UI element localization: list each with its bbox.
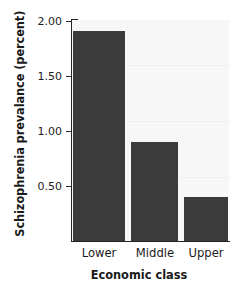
y-axis-line bbox=[71, 19, 72, 242]
y-tick-label-0.50: 0.50 bbox=[22, 181, 62, 192]
y-tick-label-2.00: 2.00 bbox=[22, 16, 62, 27]
plot-area bbox=[72, 20, 229, 241]
bar-upper bbox=[184, 197, 228, 241]
bar-middle bbox=[131, 142, 178, 241]
x-tick-label-lower: Lower bbox=[69, 248, 129, 260]
bar-chart-figure: Schizophrenia prevalance (percent) 2.00 … bbox=[0, 0, 232, 292]
y-axis-top-stub bbox=[71, 19, 78, 20]
y-tick-label-1.00: 1.00 bbox=[22, 126, 62, 137]
x-axis-title: Economic class bbox=[0, 270, 232, 281]
x-tick-label-middle: Middle bbox=[125, 248, 185, 260]
y-axis-tick-labels: 2.00 1.50 1.00 0.50 bbox=[22, 0, 62, 292]
x-axis-line bbox=[71, 241, 230, 242]
bar-lower bbox=[73, 31, 125, 241]
x-tick-label-upper: Upper bbox=[180, 248, 232, 260]
y-tick-label-1.50: 1.50 bbox=[22, 71, 62, 82]
